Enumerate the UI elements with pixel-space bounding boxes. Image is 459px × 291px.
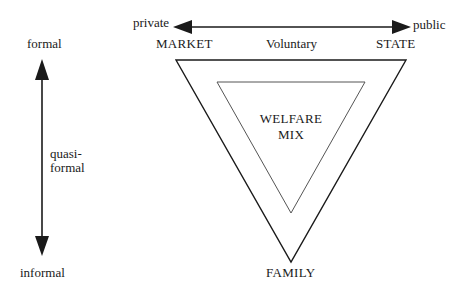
- welfare-label: WELFARE: [251, 112, 331, 126]
- public-label: public: [413, 18, 446, 32]
- arrowhead-right-icon: [392, 20, 411, 34]
- mix-label: MIX: [251, 128, 331, 142]
- family-label: FAMILY: [266, 266, 315, 280]
- private-public-arrow: [173, 20, 411, 34]
- quasi-formal-label-line1: quasi-: [50, 147, 82, 161]
- formal-label: formal: [27, 37, 62, 51]
- informal-label: informal: [20, 266, 65, 280]
- market-label: MARKET: [156, 37, 213, 51]
- state-label: STATE: [376, 37, 415, 51]
- arrowhead-left-icon: [173, 20, 192, 34]
- welfare-mix-diagram: private public formal quasi- formal info…: [0, 0, 459, 291]
- formal-informal-arrow: [35, 59, 49, 256]
- voluntary-label: Voluntary: [266, 37, 317, 51]
- inner-triangle: [217, 82, 365, 213]
- quasi-formal-label-line2: formal: [50, 161, 85, 175]
- private-label: private: [133, 16, 169, 30]
- outer-triangle: [176, 60, 406, 262]
- arrowhead-down-icon: [35, 236, 49, 256]
- arrowhead-up-icon: [35, 59, 49, 80]
